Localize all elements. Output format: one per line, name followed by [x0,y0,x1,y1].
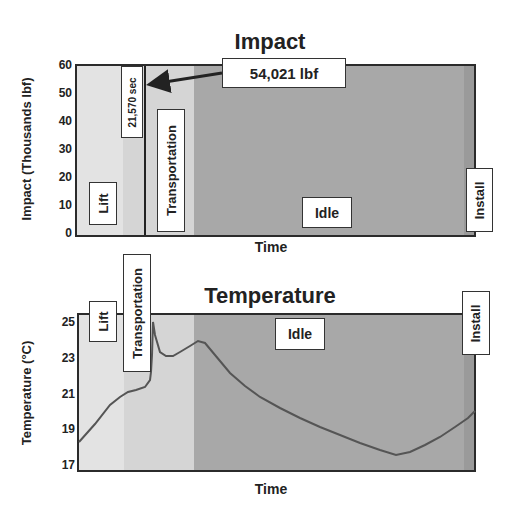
temperature-idle-label: Idle [275,318,325,350]
temperature-line [0,0,516,516]
lift-label-text: Lift [96,311,111,331]
temperature-install-label: Install [462,291,490,355]
transportation-label-text: Transportation [130,267,145,358]
install-label-text: Install [469,304,484,342]
temperature-x-axis-label: Time [231,481,311,497]
temperature-lift-label: Lift [89,301,117,342]
temperature-transportation-label: Transportation [123,254,151,372]
